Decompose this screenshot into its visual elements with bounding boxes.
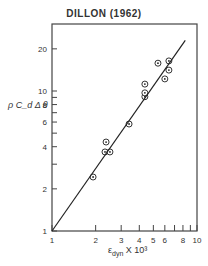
y-tick-label: 20 — [38, 45, 47, 54]
data-point-dot — [104, 151, 106, 153]
y-tick-label: 6 — [43, 118, 48, 127]
scatter-plot: 124681020123456810 — [0, 0, 208, 266]
x-axis-label-sub: dyn — [112, 250, 123, 257]
x-tick-label: 8 — [181, 236, 186, 245]
data-point-dot — [168, 60, 170, 62]
y-axis-label-text: ρ C_d Δ θ — [8, 100, 48, 110]
data-point-dot — [105, 141, 107, 143]
x-tick-label: 5 — [151, 236, 156, 245]
data-point-dot — [168, 69, 170, 71]
x-tick-label: 2 — [93, 236, 98, 245]
y-axis-label: ρ C_d Δ θ — [8, 100, 48, 110]
y-tick-label: 4 — [43, 143, 48, 152]
data-point-dot — [92, 176, 94, 178]
x-axis-label: εdyn X 10³ — [108, 245, 147, 257]
y-tick-label: 2 — [43, 185, 48, 194]
data-point-dot — [157, 62, 159, 64]
x-tick-label: 10 — [193, 236, 202, 245]
data-point-dot — [144, 83, 146, 85]
y-tick-label: 1 — [43, 227, 48, 236]
fit-line — [52, 40, 185, 231]
data-point-dot — [128, 123, 130, 125]
x-tick-label: 6 — [163, 236, 168, 245]
x-tick-label: 4 — [137, 236, 142, 245]
x-tick-label: 3 — [119, 236, 124, 245]
data-point-dot — [144, 92, 146, 94]
data-point-dot — [109, 151, 111, 153]
data-point-dot — [164, 78, 166, 80]
x-tick-label: 1 — [50, 236, 55, 245]
y-tick-label: 10 — [38, 87, 47, 96]
x-axis-label-suffix: X 10³ — [123, 245, 147, 255]
